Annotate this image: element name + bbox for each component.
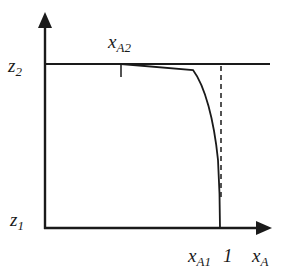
profile-curve: [121, 64, 220, 228]
xa-axis-label: xA: [251, 245, 268, 269]
z1-label: z1: [9, 209, 24, 233]
y-axis: [38, 12, 52, 229]
xa1-label: xA1: [187, 245, 211, 269]
y-axis-arrow-icon: [38, 12, 52, 28]
z2-label: z2: [7, 55, 22, 79]
one-label: 1: [223, 245, 233, 266]
x-axis-arrow-icon: [256, 221, 272, 235]
diagram-canvas: z2 z1 xA2 xA1 1 xA: [0, 0, 289, 278]
x-axis: [44, 221, 272, 235]
xa2-label: xA2: [107, 31, 131, 55]
